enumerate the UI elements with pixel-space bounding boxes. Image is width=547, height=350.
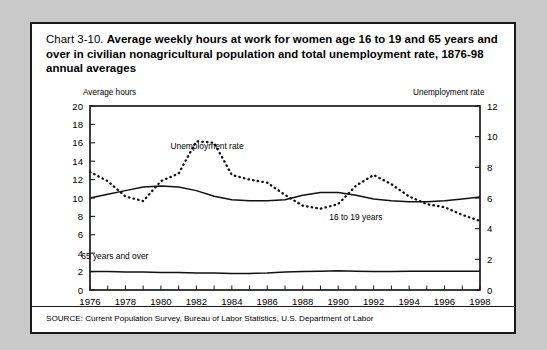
- series-annotation: Unemployment rate: [170, 141, 243, 151]
- x-tick-label: 1992: [363, 296, 384, 307]
- x-tick-label: 1994: [398, 296, 420, 307]
- y2-tick-label: 4: [487, 223, 493, 234]
- x-tick-label: 1986: [257, 296, 278, 307]
- series-line-unemployment-rate: [90, 141, 480, 221]
- x-tick-label: 1990: [328, 296, 349, 307]
- x-tick-label: 1978: [115, 296, 136, 307]
- chart-svg: 0246810121416182002468101219761978198019…: [32, 24, 518, 336]
- y2-tick-label: 8: [487, 162, 492, 173]
- series-annotation: 65 years and over: [81, 251, 148, 261]
- y2-tick-label: 0: [487, 285, 492, 296]
- y-tick-label: 18: [72, 119, 83, 130]
- y-tick-label: 0: [78, 285, 83, 296]
- x-tick-label: 1980: [150, 296, 171, 307]
- y-tick-label: 6: [78, 229, 83, 240]
- screenshot-page: Chart 3-10. Average weekly hours at work…: [0, 0, 547, 350]
- source-note: SOURCE: Current Population Survey, Burea…: [46, 314, 373, 323]
- x-tick-label: 1998: [469, 296, 490, 307]
- y2-tick-label: 12: [487, 101, 498, 112]
- y-tick-label: 8: [78, 211, 83, 222]
- y-tick-label: 12: [72, 174, 83, 185]
- y2-tick-label: 2: [487, 254, 492, 265]
- y2-tick-label: 10: [487, 131, 498, 142]
- x-tick-label: 1988: [292, 296, 313, 307]
- series-annotation: 16 to 19 years: [329, 212, 382, 222]
- y-tick-label: 16: [72, 137, 83, 148]
- y-tick-label: 10: [72, 193, 83, 204]
- y-tick-label: 2: [78, 266, 83, 277]
- plot-frame: [90, 106, 480, 290]
- y-tick-label: 14: [72, 156, 83, 167]
- plot-area: 0246810121416182002468101219761978198019…: [32, 24, 518, 336]
- source-divider: [32, 306, 514, 307]
- x-tick-label: 1976: [79, 296, 100, 307]
- series-line-65-years-and-over: [90, 271, 480, 274]
- chart-figure-frame: Chart 3-10. Average weekly hours at work…: [30, 22, 516, 334]
- y-tick-label: 20: [72, 101, 83, 112]
- x-tick-label: 1996: [434, 296, 455, 307]
- x-tick-label: 1982: [186, 296, 207, 307]
- y2-tick-label: 6: [487, 193, 492, 204]
- x-tick-label: 1984: [221, 296, 243, 307]
